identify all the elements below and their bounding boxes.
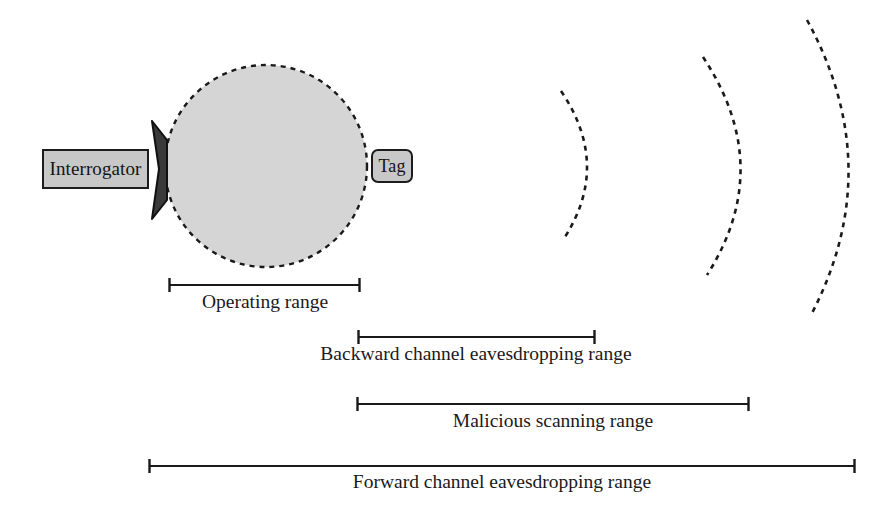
operating-range-label: Operating range: [202, 290, 328, 314]
antenna-cone-icon: [152, 121, 167, 219]
wavefront-arc-2: [703, 57, 741, 275]
malicious-scanning-range-label: Malicious scanning range: [453, 409, 653, 433]
diagram-canvas: [0, 0, 891, 525]
interrogator-node: Interrogator: [42, 149, 149, 189]
forward-channel-eavesdropping-range-label: Forward channel eavesdropping range: [353, 470, 651, 494]
backward-channel-eavesdropping-range-label: Backward channel eavesdropping range: [320, 342, 631, 366]
wavefront-arc-3: [807, 20, 849, 315]
wavefront-arc-1: [561, 91, 587, 240]
operating-field-circle: [165, 65, 367, 267]
tag-node: Tag: [371, 149, 413, 183]
rfid-range-diagram: Interrogator Tag Operating range Backwar…: [0, 0, 891, 525]
